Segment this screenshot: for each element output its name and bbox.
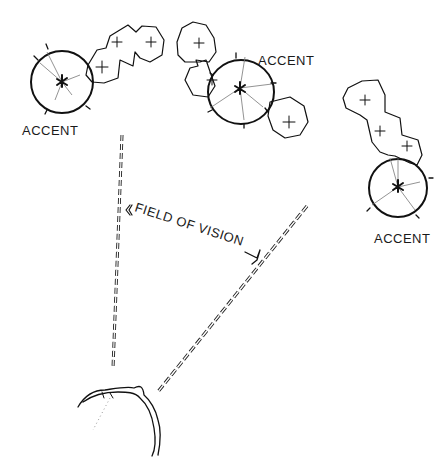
sightline-left-inner <box>113 135 122 368</box>
right-group: ACCENT <box>343 80 433 246</box>
shrub-outline <box>177 22 216 97</box>
field-arrow-right-icon <box>245 250 260 264</box>
viewer-head <box>78 386 160 456</box>
accent-label: ACCENT <box>374 231 430 246</box>
left-group: ACCENT <box>22 25 164 138</box>
field-of-vision-label: FIELD OF VISION <box>133 200 246 249</box>
field-arrow-left-icon <box>126 205 132 215</box>
accent-tree-center-icon <box>235 82 245 94</box>
shrub-plus-icons <box>96 37 156 73</box>
accent-label: ACCENT <box>258 53 314 68</box>
shrub-outline <box>86 25 164 83</box>
center-group: ACCENT <box>177 22 314 138</box>
accent-tree-branches <box>40 52 80 100</box>
shrub-outline <box>343 80 422 165</box>
shrub-outline <box>268 97 308 138</box>
accent-label: ACCENT <box>22 123 78 138</box>
field-of-vision: FIELD OF VISION <box>113 135 307 393</box>
landscape-accent-diagram: ACCENT ACCENT <box>0 0 447 475</box>
head-sightline-dots <box>93 398 110 430</box>
